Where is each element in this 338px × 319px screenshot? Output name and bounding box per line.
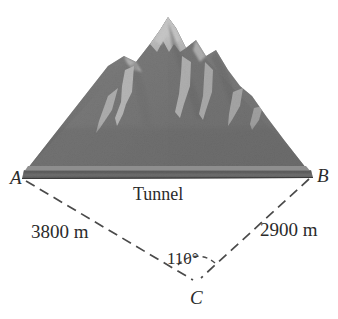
vertex-label-a: A bbox=[10, 168, 22, 187]
figure-container: A B C Tunnel 3800 m 2900 m 110° bbox=[0, 0, 338, 319]
tunnel-label: Tunnel bbox=[133, 185, 183, 203]
side-label-bc: 2900 m bbox=[260, 220, 318, 239]
vertex-label-b: B bbox=[317, 166, 329, 185]
mountain-texture bbox=[20, 10, 320, 175]
side-label-ac: 3800 m bbox=[31, 222, 89, 241]
vertex-label-c: C bbox=[190, 288, 203, 307]
angle-label-c: 110° bbox=[167, 250, 199, 267]
mountain-graphic bbox=[20, 10, 320, 179]
diagram-canvas bbox=[0, 0, 338, 319]
